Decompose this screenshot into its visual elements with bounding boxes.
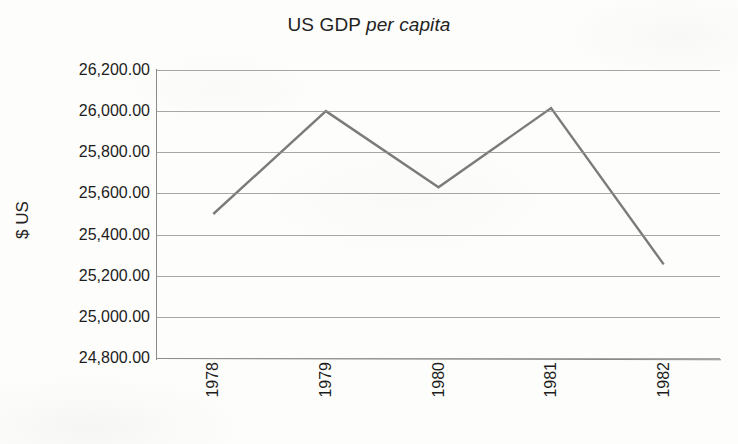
- y-axis-tick-label: 24,800.00: [42, 349, 150, 367]
- x-axis-tick-label-text: 1981: [539, 362, 563, 434]
- y-axis-tick-label: 25,400.00: [42, 226, 150, 244]
- y-axis-tick-label: 25,800.00: [42, 143, 150, 161]
- x-axis-tick-label: 1980: [427, 362, 451, 434]
- gridline: [157, 317, 720, 318]
- y-axis-title: $ US: [6, 184, 40, 260]
- line-chart: US GDP per capita $ US 26,200.0026,000.0…: [0, 0, 738, 444]
- x-axis-tick-label-text: 1978: [201, 362, 225, 434]
- data-series-line: [157, 70, 720, 358]
- x-axis-tick-label: 1982: [652, 362, 676, 434]
- gridline: [157, 193, 720, 194]
- x-axis-tick-label: 1979: [314, 362, 338, 434]
- y-axis-tick-label: 25,200.00: [42, 267, 150, 285]
- x-axis-tick-label-text: 1980: [427, 362, 451, 434]
- gridline: [157, 276, 720, 277]
- series-polyline: [213, 108, 663, 264]
- x-axis-tick-label-text: 1982: [652, 362, 676, 434]
- x-axis-tick-label-text: 1979: [314, 362, 338, 434]
- y-axis-tick-label: 25,600.00: [42, 184, 150, 202]
- y-axis-tick-label: 25,000.00: [42, 308, 150, 326]
- x-axis-tick-label: 1981: [539, 362, 563, 434]
- x-axis-tick-label: 1978: [201, 362, 225, 434]
- gridline: [157, 152, 720, 153]
- chart-title-italic: per capita: [366, 14, 450, 35]
- y-axis-tick-label: 26,000.00: [42, 102, 150, 120]
- y-axis-tick-labels: 26,200.0026,000.0025,800.0025,600.0025,4…: [42, 58, 150, 360]
- gridline: [157, 111, 720, 112]
- gridline: [157, 70, 720, 71]
- chart-title-plain: US GDP: [288, 14, 366, 35]
- x-axis-tick-labels: 19781979198019811982: [157, 362, 720, 440]
- plot-area: [157, 70, 720, 358]
- gridline: [157, 235, 720, 236]
- y-axis-tick-label: 26,200.00: [42, 61, 150, 79]
- chart-title: US GDP per capita: [0, 14, 738, 36]
- gridline: [157, 358, 720, 359]
